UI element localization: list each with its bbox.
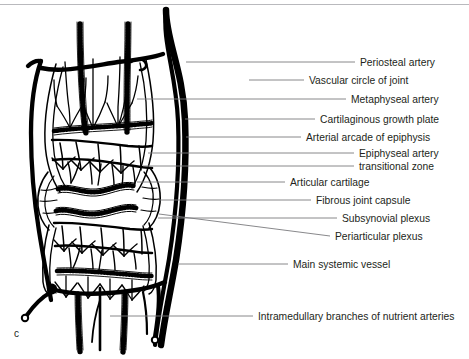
label-periosteal-artery: Periosteal artery xyxy=(360,58,435,68)
label-vascular-circle-of-joint: Vascular circle of joint xyxy=(309,76,408,86)
label-subsynovial-plexus: Subsynovial plexus xyxy=(342,214,430,224)
label-transitional-zone: transitional zone xyxy=(359,162,434,172)
figure-root: Periosteal arteryVascular circle of join… xyxy=(0,0,469,359)
label-main-systemic-vessel: Main systemic vessel xyxy=(293,260,390,270)
label-intramedullary-branches-of-nutrient-arteries: Intramedullary branches of nutrient arte… xyxy=(258,312,454,322)
label-epiphyseal-artery: Epiphyseal artery xyxy=(359,149,439,159)
label-fibrous-joint-capsule: Fibrous joint capsule xyxy=(316,196,410,206)
figure-letter: c xyxy=(14,329,19,339)
label-periarticular-plexus: Periarticular plexus xyxy=(335,232,423,242)
label-arterial-arcade-of-epiphysis: Arterial arcade of epiphysis xyxy=(306,133,430,143)
label-articular-cartilage: Articular cartilage xyxy=(290,178,370,188)
label-cartilaginous-growth-plate: Cartilaginous growth plate xyxy=(320,115,439,125)
label-metaphyseal-artery: Metaphyseal artery xyxy=(351,95,439,105)
leader-lines-layer xyxy=(0,0,469,359)
leader-line-periarticular-plexus xyxy=(159,214,330,236)
